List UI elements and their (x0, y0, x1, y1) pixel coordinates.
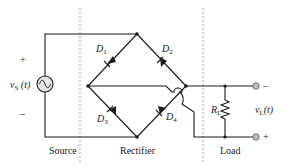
section-label-load: Load (220, 145, 241, 156)
diode-d2-icon (157, 57, 167, 67)
diode-d4-label: D4 (165, 111, 177, 124)
diode-d3-label: D3 (96, 113, 108, 126)
output-minus-sign: – (262, 80, 269, 91)
output-plus-sign: + (263, 131, 269, 142)
load-voltage-label: vL(t) (255, 104, 274, 117)
load-resistor-label: RL (210, 104, 221, 117)
output-terminal-bottom (253, 134, 259, 140)
output-terminal-top (253, 83, 259, 89)
diode-d2-label: D2 (161, 43, 173, 56)
section-label-source: Source (49, 145, 77, 156)
ac-source-icon (37, 76, 53, 92)
source-voltage-label: vS (t) (10, 79, 31, 92)
diode-d1-label: D1 (95, 43, 107, 56)
source-minus-sign: – (19, 108, 26, 119)
diode-d4-icon (156, 106, 166, 116)
load-resistor-icon (221, 86, 229, 137)
bridge-rectifier-diagram: + – vS (t) D1 D2 D3 D4 RL vL(t) – + Sour… (0, 0, 284, 166)
section-label-rectifier: Rectifier (120, 145, 156, 156)
source-plus-sign: + (20, 54, 26, 65)
